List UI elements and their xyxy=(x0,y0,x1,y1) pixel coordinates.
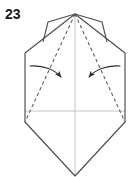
right-fold-arrow xyxy=(89,66,120,77)
left-valley-fold-line xyxy=(25,14,75,122)
origami-diagram xyxy=(0,0,134,177)
origami-step-figure: 23 xyxy=(0,0,134,177)
right-valley-fold-line xyxy=(75,14,125,122)
left-fold-arrow xyxy=(30,66,61,77)
